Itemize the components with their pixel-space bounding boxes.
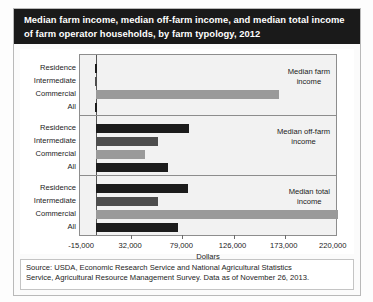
bar	[95, 64, 97, 73]
panel-divider	[80, 115, 336, 116]
x-axis-tick-label: 220,000	[319, 241, 346, 250]
source-line-1: Source: USDA, Economic Research Service …	[26, 263, 348, 273]
y-axis-label-intermediate: Intermediate	[20, 196, 76, 205]
series-annotation-line: income	[288, 77, 330, 87]
x-axis-tick-label: -15,000	[68, 241, 94, 250]
y-axis-label-commercial: Commercial	[20, 209, 76, 218]
y-axis-label-residence: Residence	[20, 63, 76, 72]
bar	[96, 210, 338, 219]
y-axis-label-residence: Residence	[20, 183, 76, 192]
series-annotation-line: income	[277, 137, 330, 147]
bar	[96, 124, 189, 133]
bar	[96, 223, 178, 232]
series-annotation-line: income	[289, 197, 330, 207]
bar	[95, 77, 97, 86]
x-axis-tick-label: 126,000	[219, 241, 246, 250]
chart-figure: Median farm income, median off-farm inco…	[13, 8, 361, 296]
y-axis-label-all: All	[20, 102, 76, 111]
page-title-line-1: Median farm income, median off-farm inco…	[24, 13, 350, 27]
y-axis-label-commercial: Commercial	[20, 89, 76, 98]
series-annotation-line: Median off-farm	[277, 127, 330, 137]
y-axis-label-residence: Residence	[20, 123, 76, 132]
source-note: Source: USDA, Economic Research Service …	[20, 259, 354, 290]
y-axis-label-all: All	[20, 222, 76, 231]
bar	[96, 184, 188, 193]
bar	[96, 150, 145, 159]
bar	[96, 90, 279, 99]
screenshot-page: Median farm income, median off-farm inco…	[0, 0, 373, 302]
series-annotation: Median farmincome	[288, 67, 330, 86]
page-title-line-2: of farm operator households, by farm typ…	[24, 27, 350, 41]
chart-title-banner: Median farm income, median off-farm inco…	[14, 9, 360, 44]
series-annotation-line: Median total	[289, 187, 330, 197]
plot-box: Median farmincomeMedian off-farmincomeMe…	[79, 54, 337, 236]
series-annotation: Median off-farmincome	[277, 127, 330, 146]
y-axis-label-intermediate: Intermediate	[20, 136, 76, 145]
bar	[96, 163, 168, 172]
bar	[96, 137, 158, 146]
chart-area: ResidenceIntermediateCommercialAllReside…	[20, 49, 354, 254]
bar	[96, 197, 158, 206]
y-axis-label-commercial: Commercial	[20, 149, 76, 158]
panel-divider	[80, 175, 336, 176]
series-annotation-line: Median farm	[288, 67, 330, 77]
x-axis-tick	[234, 235, 235, 239]
x-axis-tick-label: 173,000	[270, 241, 297, 250]
series-annotation: Median totalincome	[289, 187, 330, 206]
source-line-2: Service, Agricultural Resource Managemen…	[26, 273, 348, 283]
y-axis-label-all: All	[20, 162, 76, 171]
y-axis-label-intermediate: Intermediate	[20, 76, 76, 85]
x-axis-tick	[285, 235, 286, 239]
x-axis-tick	[182, 235, 183, 239]
y-axis-labels: ResidenceIntermediateCommercialAllReside…	[20, 54, 76, 236]
x-axis-tick-label: 79,000	[170, 241, 193, 250]
x-axis-tick-label: 32,000	[119, 241, 142, 250]
bar	[95, 103, 97, 112]
x-axis-tick	[131, 235, 132, 239]
